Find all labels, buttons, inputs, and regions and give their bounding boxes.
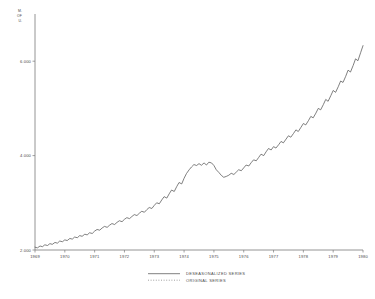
y-tick-label: 6.000 xyxy=(20,59,32,64)
axis-unit-line: OF xyxy=(17,14,22,18)
time-series-chart: M.OFU. 2.0004.0006.000 19691970197119721… xyxy=(0,0,375,299)
x-tick-label: 1973 xyxy=(149,254,159,259)
chart-legend: DESEASONALIZED SERIESORIGINAL SERIES xyxy=(148,271,245,283)
x-tick-label: 1969 xyxy=(30,254,40,259)
y-axis: 2.0004.0006.000 xyxy=(20,14,35,253)
series-line xyxy=(35,46,363,248)
x-tick-label: 1972 xyxy=(120,254,130,259)
x-tick-label: 1975 xyxy=(209,254,219,259)
x-tick-label: 1971 xyxy=(90,254,100,259)
axis-unit-label: M.OFU. xyxy=(17,9,22,23)
x-tick-label: 1970 xyxy=(60,254,70,259)
y-tick-label: 4.000 xyxy=(20,153,32,158)
x-tick-label: 1974 xyxy=(179,254,189,259)
chart-container: M.OFU. 2.0004.0006.000 19691970197119721… xyxy=(0,0,375,299)
x-tick-label: 1976 xyxy=(239,254,249,259)
x-tick-label: 1980 xyxy=(358,254,368,259)
axis-unit-line: U. xyxy=(18,19,22,23)
data-series-group xyxy=(35,46,363,248)
axis-unit-line: M. xyxy=(18,9,22,13)
legend-item-label: ORIGINAL SERIES xyxy=(186,278,226,283)
x-axis: 1969197019711972197319741975197619771978… xyxy=(30,250,368,259)
legend-item-label: DESEASONALIZED SERIES xyxy=(186,271,245,276)
y-tick-label: 2.000 xyxy=(20,248,32,253)
x-tick-label: 1978 xyxy=(299,254,309,259)
x-tick-label: 1977 xyxy=(269,254,279,259)
x-tick-label: 1979 xyxy=(328,254,338,259)
